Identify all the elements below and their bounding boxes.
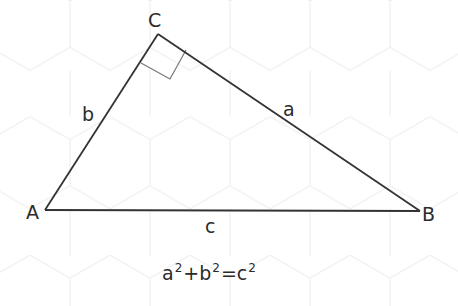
side-label-b: b [82,103,94,125]
formula-c-exponent: 2 [248,261,256,275]
formula-b: b [199,262,211,284]
pythagorean-diagram: C A B b a c a2+b2=c2 [0,0,458,306]
formula-c: c [237,262,247,284]
formula-b-exponent: 2 [212,261,220,275]
formula-a: a [162,262,174,284]
formula-plus: + [183,262,199,284]
vertex-label-b: B [422,203,435,225]
side-c [45,210,420,211]
vertex-label-a: A [26,201,39,223]
side-label-c: c [205,215,215,237]
formula-a-exponent: 2 [175,261,183,275]
side-label-a: a [283,98,295,120]
vertex-label-c: C [148,9,161,31]
hex-grid-background [0,0,458,306]
formula-equals: = [221,262,237,284]
